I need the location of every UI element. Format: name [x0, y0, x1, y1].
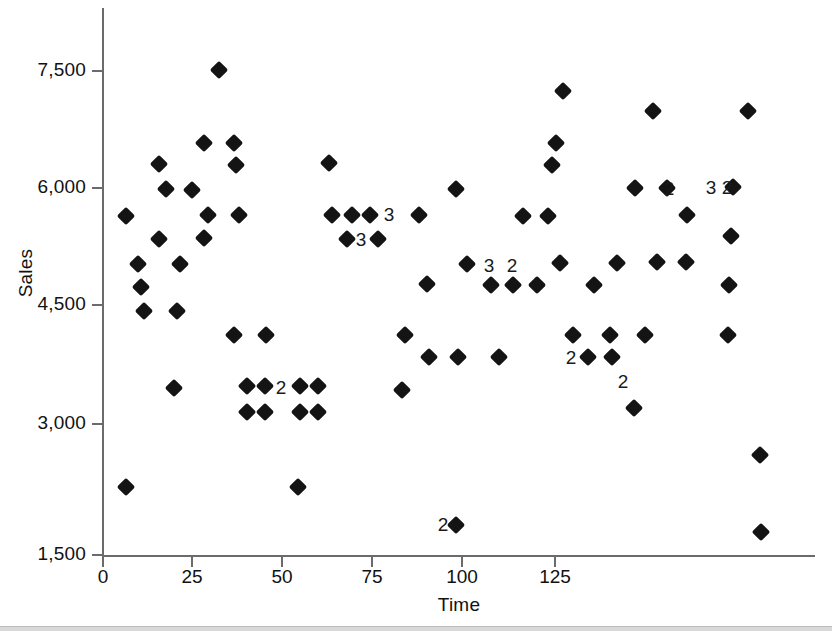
point-count-label: 3 — [384, 205, 395, 224]
data-point-marker — [636, 326, 654, 344]
point-count-label: 2 — [618, 372, 629, 391]
point-count-label: 2 — [276, 378, 287, 397]
data-point-marker — [449, 348, 467, 366]
x-axis-tick-label: 0 — [63, 566, 143, 588]
data-point-marker — [320, 154, 338, 172]
y-axis-tick-label-wrap: 1,500 — [0, 543, 86, 567]
point-count-label: 3 — [706, 178, 717, 197]
data-point-marker — [238, 377, 256, 395]
data-point-marker — [168, 302, 186, 320]
data-point-marker — [238, 403, 256, 421]
x-axis-tick-label: 75 — [332, 566, 412, 588]
x-axis-tick-label: 50 — [242, 566, 322, 588]
data-point-marker — [504, 276, 522, 294]
y-axis-tick-label: 6,000 — [37, 176, 86, 198]
data-point-marker — [551, 254, 569, 272]
y-axis-tick-label-wrap: 6,000 — [0, 176, 86, 200]
data-point-marker — [195, 134, 213, 152]
y-axis-tick — [92, 187, 103, 189]
point-count-label: 3 — [484, 256, 495, 275]
data-point-marker — [157, 180, 175, 198]
data-point-marker — [227, 156, 245, 174]
data-point-marker — [309, 377, 327, 395]
data-point-marker — [256, 377, 274, 395]
data-point-marker — [579, 348, 597, 366]
data-point-marker — [626, 179, 644, 197]
data-point-marker — [117, 478, 135, 496]
data-point-marker — [165, 379, 183, 397]
y-axis-tick-label-wrap: 7,500 — [0, 59, 86, 83]
data-point-marker — [608, 254, 626, 272]
data-point-marker — [648, 253, 666, 271]
data-point-marker — [719, 326, 737, 344]
data-point-marker — [150, 230, 168, 248]
data-point-marker — [289, 478, 307, 496]
data-point-marker — [420, 348, 438, 366]
y-axis-title: Sales — [15, 213, 37, 333]
point-count-label: 3 — [356, 230, 367, 249]
x-axis-title: Time — [103, 594, 815, 616]
x-axis-tick-label: 25 — [152, 566, 232, 588]
x-axis-tick-label: 125 — [515, 566, 595, 588]
point-count-label: 2 — [566, 348, 577, 367]
scatter-plot-figure: 1,5003,0004,5006,0007,500 0255075100125 … — [0, 0, 832, 636]
data-point-marker — [132, 278, 150, 296]
data-point-marker — [410, 206, 428, 224]
point-count-label: 2 — [722, 178, 733, 197]
y-axis-tick-label-wrap: 4,500 — [0, 293, 86, 317]
data-point-marker — [361, 206, 379, 224]
data-point-marker — [393, 381, 411, 399]
data-point-marker — [418, 275, 436, 293]
plot-area: 23332222232 — [103, 8, 815, 555]
data-point-marker — [547, 134, 565, 152]
data-point-marker — [183, 181, 201, 199]
data-point-marker — [625, 399, 643, 417]
data-point-marker — [369, 230, 387, 248]
y-axis-tick — [92, 70, 103, 72]
data-point-marker — [458, 255, 476, 273]
data-point-marker — [490, 348, 508, 366]
data-point-marker — [644, 102, 662, 120]
data-point-marker — [129, 255, 147, 273]
data-point-marker — [720, 276, 738, 294]
data-point-marker — [678, 206, 696, 224]
data-point-marker — [447, 516, 465, 534]
y-axis-tick-label: 3,000 — [37, 412, 86, 434]
y-axis-tick-label-wrap: 3,000 — [0, 412, 86, 436]
data-point-marker — [482, 276, 500, 294]
data-point-marker — [323, 206, 341, 224]
data-point-marker — [585, 276, 603, 294]
page-footer-rule — [0, 626, 832, 631]
data-point-marker — [150, 155, 168, 173]
data-point-marker — [171, 255, 189, 273]
data-point-marker — [514, 207, 532, 225]
data-point-marker — [539, 207, 557, 225]
data-point-marker — [752, 523, 770, 541]
y-axis-tick — [92, 423, 103, 425]
point-count-label: 2 — [438, 515, 449, 534]
data-point-marker — [225, 134, 243, 152]
data-point-marker — [135, 302, 153, 320]
data-point-marker — [195, 229, 213, 247]
data-point-marker — [528, 276, 546, 294]
y-axis-tick-label: 4,500 — [37, 293, 86, 315]
x-axis-line — [102, 555, 815, 557]
data-point-marker — [309, 403, 327, 421]
data-point-marker — [677, 253, 695, 271]
data-point-marker — [291, 377, 309, 395]
data-point-marker — [543, 156, 561, 174]
data-point-marker — [739, 102, 757, 120]
data-point-marker — [257, 326, 275, 344]
data-point-marker — [199, 206, 217, 224]
data-point-marker — [210, 61, 228, 79]
y-axis-tick-label: 1,500 — [37, 543, 86, 565]
data-point-marker — [291, 403, 309, 421]
point-count-label: 2 — [507, 256, 518, 275]
data-point-marker — [554, 82, 572, 100]
x-axis-tick-label: 100 — [422, 566, 502, 588]
data-point-marker — [230, 206, 248, 224]
data-point-marker — [447, 180, 465, 198]
data-point-marker — [396, 326, 414, 344]
data-point-marker — [225, 326, 243, 344]
data-point-marker — [751, 446, 769, 464]
